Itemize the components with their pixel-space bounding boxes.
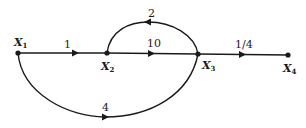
- node-x1: [15, 50, 20, 55]
- node-label-x4: X4: [282, 62, 297, 76]
- node-x2: [104, 50, 109, 55]
- arrow-right-icon: [102, 114, 109, 121]
- gain-label-x1-x2: 1: [64, 38, 71, 51]
- node-label-x1: X1: [13, 36, 28, 50]
- signal-flow-graph: X1 X2 X3 X4 1 10 2 1/4 4: [0, 0, 306, 128]
- arrow-right-icon: [148, 50, 155, 57]
- node-x3: [195, 51, 200, 56]
- gain-label-x2-x3: 10: [147, 37, 161, 50]
- gain-label-x3-x4: 1/4: [235, 38, 253, 51]
- arrow-right-icon: [239, 51, 246, 58]
- node-label-x3: X3: [201, 59, 216, 73]
- arrow-right-icon: [72, 50, 79, 57]
- gain-label-x3-x2: 2: [148, 7, 155, 20]
- gain-label-x1-x3: 4: [102, 101, 109, 114]
- node-x4: [285, 52, 290, 57]
- node-label-x2: X2: [100, 60, 115, 74]
